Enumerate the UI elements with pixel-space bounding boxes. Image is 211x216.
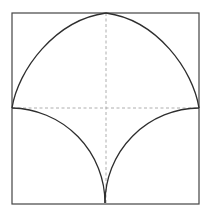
upper-left-arc <box>12 13 106 108</box>
upper-right-arc <box>106 13 199 108</box>
bounding-square <box>12 13 199 204</box>
lower-right-arc <box>105 108 199 203</box>
arch-diagram <box>0 0 211 216</box>
lower-left-arc <box>12 108 105 203</box>
